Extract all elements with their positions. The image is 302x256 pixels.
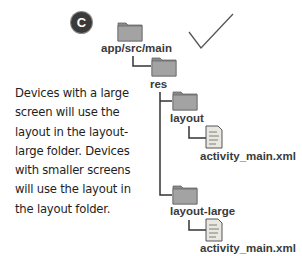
file-label-activity-main-large: activity_main.xml (200, 242, 296, 254)
note-line: will use the layout in (15, 180, 155, 199)
folder-icon (172, 183, 198, 205)
folder-icon (172, 89, 198, 111)
folder-icon (117, 20, 143, 42)
file-label-activity-main: activity_main.xml (200, 150, 296, 162)
xml-file-icon (205, 125, 223, 149)
folder-label-layout-large: layout-large (170, 205, 235, 217)
xml-file-icon (205, 218, 223, 242)
note-line: screen will use the (15, 103, 155, 122)
note-line: large folder. Devices (15, 142, 155, 161)
note-line: Devices with a large (15, 84, 155, 103)
explanation-note: Devices with a large screen will use the… (15, 84, 155, 219)
note-line: layout in the layout- (15, 123, 155, 142)
folder-label-layout: layout (170, 112, 204, 124)
folder-label-app-src-main: app/src/main (101, 42, 172, 54)
folder-icon (151, 55, 177, 77)
note-line: the layout folder. (15, 200, 155, 219)
checkmark-icon (185, 10, 240, 55)
note-line: with smaller screens (15, 161, 155, 180)
option-badge: C (71, 12, 92, 33)
